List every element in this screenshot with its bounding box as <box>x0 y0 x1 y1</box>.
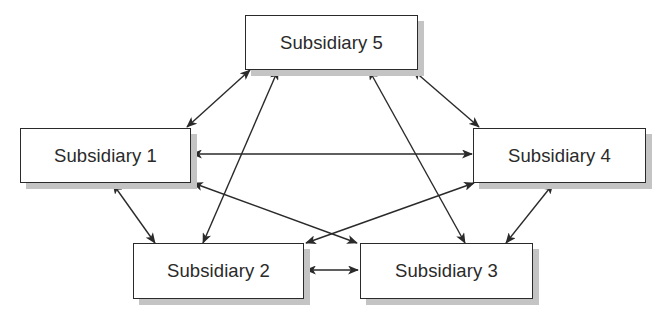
node-subsidiary-2: Subsidiary 2 <box>133 243 304 299</box>
arrow-s5-s1 <box>187 70 250 127</box>
subsidiary-network-diagram: Subsidiary 5 Subsidiary 1 Subsidiary 4 S… <box>0 0 664 323</box>
node-label: Subsidiary 5 <box>280 32 383 54</box>
arrow-s5-s3 <box>369 70 465 243</box>
node-subsidiary-3: Subsidiary 3 <box>360 243 533 299</box>
arrow-s5-s2 <box>203 70 278 243</box>
node-subsidiary-1: Subsidiary 1 <box>20 128 191 183</box>
node-subsidiary-5: Subsidiary 5 <box>245 15 418 70</box>
arrow-s1-s2 <box>113 184 155 243</box>
node-subsidiary-4: Subsidiary 4 <box>473 128 646 183</box>
node-label: Subsidiary 3 <box>395 260 498 282</box>
arrow-s5-s4 <box>413 70 479 127</box>
arrow-s4-s3 <box>506 184 553 243</box>
node-label: Subsidiary 4 <box>508 145 611 167</box>
node-label: Subsidiary 1 <box>54 145 157 167</box>
node-label: Subsidiary 2 <box>167 260 270 282</box>
